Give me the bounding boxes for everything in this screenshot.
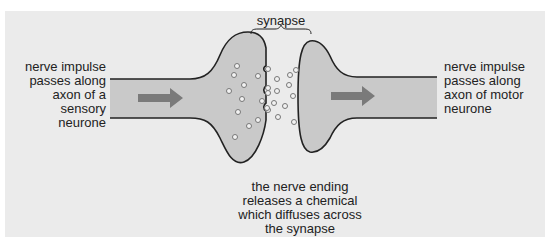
caption-line: nerve impulse [444, 60, 553, 74]
caption-line: axon of motor [444, 88, 553, 102]
caption-line: passes along [6, 74, 106, 88]
caption-line: passes along [444, 74, 553, 88]
caption-line: the synapse [210, 222, 390, 236]
caption-line: nerve impulse [6, 60, 106, 74]
caption-line: which diffuses across [210, 208, 390, 222]
nerve-ending-caption: the nerve ending releases a chemical whi… [210, 180, 390, 236]
synapse-label: synapse [256, 14, 306, 28]
caption-line: the nerve ending [210, 180, 390, 194]
caption-line: sensory [6, 102, 106, 116]
caption-line: axon of a [6, 88, 106, 102]
sensory-neurone-caption: nerve impulse passes along axon of a sen… [6, 60, 106, 130]
motor-neurone-caption: nerve impulse passes along axon of motor… [444, 60, 553, 116]
caption-line: neurone [6, 116, 106, 130]
caption-line: releases a chemical [210, 194, 390, 208]
caption-line: neurone [444, 102, 553, 116]
